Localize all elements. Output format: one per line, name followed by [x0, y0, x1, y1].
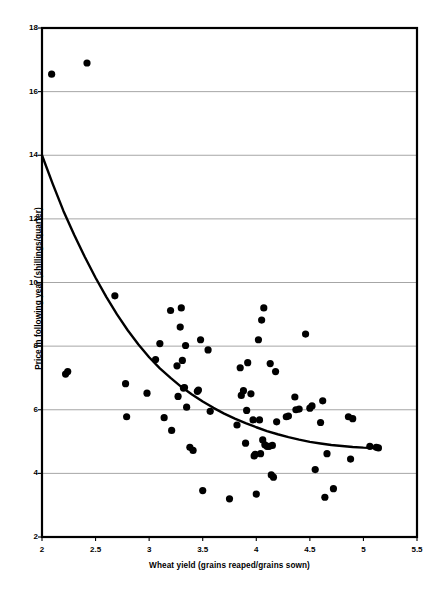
x-tick-label: 3.5	[183, 546, 223, 554]
chart-figure: Price in following year (shillings/quart…	[0, 0, 442, 589]
x-tick-label: 4.5	[290, 546, 330, 554]
x-tick-label: 5	[343, 546, 383, 554]
x-axis-tick-labels: 22.533.544.555.5	[0, 0, 442, 589]
x-tick-label: 4	[236, 546, 276, 554]
x-tick-label: 2	[22, 546, 62, 554]
x-tick-label: 3	[129, 546, 169, 554]
x-tick-label: 5.5	[397, 546, 437, 554]
x-tick-label: 2.5	[76, 546, 116, 554]
x-axis-title: Wheat yield (grains reaped/grains sown)	[42, 561, 417, 570]
